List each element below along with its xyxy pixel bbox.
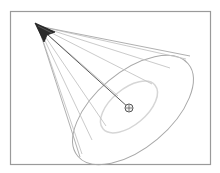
cone-lines [38,26,186,154]
diagram-canvas [0,0,220,173]
crosshair-target-icon [125,104,133,112]
cone-diagram-svg [0,0,220,173]
